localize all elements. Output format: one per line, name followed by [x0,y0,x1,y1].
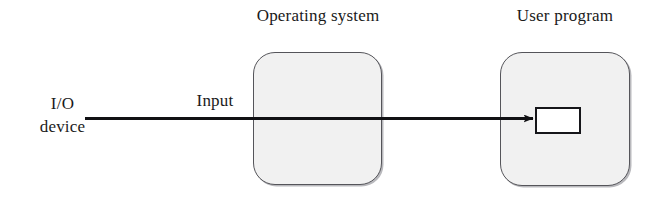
io-device-label-line1: I/O [51,94,74,113]
io-device-label-line2: device [20,116,105,139]
operating-system-box [253,52,382,185]
io-device-label: I/O device [20,93,105,139]
diagram-canvas: Operating system User program I/O device… [0,0,659,197]
operating-system-label: Operating system [253,6,383,26]
input-flow-label: Input [175,91,255,111]
buffer-rectangle [535,107,581,134]
user-program-label: User program [500,6,630,26]
